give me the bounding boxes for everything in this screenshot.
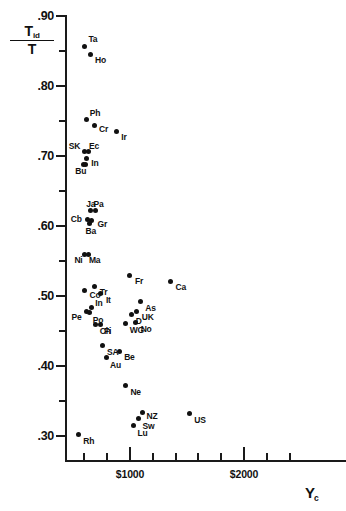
y-tick-major [56,435,67,437]
scatter-plot-figure: Tid T Yc $1000$2000 TaHoPhCrIrSKEcInBuJa… [0,0,346,511]
data-point [138,299,143,304]
y-tick-label: .80 [38,80,54,93]
y-tick-major [56,15,67,17]
x-tick-minor [220,453,222,461]
data-point [92,123,97,128]
data-point [83,162,88,167]
data-point [87,310,92,315]
data-point-label: Be [124,353,134,362]
data-point-label: US [194,416,205,425]
x-tick-minor [83,453,85,461]
data-point-label: Ir [121,133,126,142]
data-point-label: Bu [75,167,86,176]
data-point-label: WG [130,326,144,335]
data-point [93,208,98,213]
x-tick-major [243,447,245,461]
data-point [82,44,87,49]
y-axis-title-subscript: id [33,31,40,40]
data-point [131,423,136,428]
data-point-label: SK [69,142,80,151]
data-point [187,411,192,416]
data-point-label: Ec [89,142,99,151]
data-point [84,117,89,122]
data-point [127,273,132,278]
data-point [117,349,122,354]
data-point [89,305,94,310]
data-point-label: As [145,304,155,313]
plot-area: $1000$2000 TaHoPhCrIrSKEcInBuJaPaCbGrBaN… [65,16,346,462]
data-point [168,279,173,284]
y-tick-label: .30 [38,430,54,443]
data-point [136,416,141,421]
x-tick-minor [266,453,268,461]
data-point-label: Ma [89,256,100,265]
data-point [100,343,105,348]
x-tick-minor [197,453,199,461]
data-point-label: In [91,159,98,168]
y-tick-major [56,85,67,87]
data-point-label: Fi [104,327,111,336]
y-axis-title-numerator: Tid [10,24,54,41]
data-point [98,322,103,327]
x-tick-label: $1000 [116,468,144,480]
data-point [82,288,87,293]
data-point [92,284,97,289]
y-tick-major [56,365,67,367]
x-tick-minor [106,453,108,461]
data-point-label: Au [110,361,121,370]
x-axis-title-subscript: c [314,493,319,503]
y-tick-minor [59,260,67,262]
data-point [114,129,119,134]
y-axis-title-denominator: T [10,41,54,57]
data-point-label: Rh [83,437,94,446]
y-tick-major [56,295,67,297]
y-tick-minor [59,400,67,402]
data-point-label: Ta [88,35,97,44]
data-point-label: Ba [86,227,96,236]
data-point-label: Pe [71,313,81,322]
y-tick-minor [59,120,67,122]
data-point-label: Gr [98,220,108,229]
data-point-label: Pa [93,200,103,209]
data-point-label: In [95,299,102,308]
x-axis-title: Yc [305,484,320,501]
y-tick-label: .40 [38,360,54,373]
data-point-label: Fr [135,277,143,286]
y-tick-minor [59,330,67,332]
data-point [104,355,109,360]
y-tick-major [56,155,67,157]
data-point-label: Ne [130,388,140,397]
y-tick-minor [59,190,67,192]
data-point [140,410,145,415]
data-point-label: Ph [90,109,100,118]
data-point [88,52,93,57]
data-point [123,321,128,326]
data-point-label: It [106,296,111,305]
y-tick-label: .70 [38,150,54,163]
data-point-label: Ni [74,256,82,265]
data-point [87,221,92,226]
x-tick-major [129,447,131,461]
data-point [123,383,128,388]
data-point-label: UK [142,313,154,322]
data-point-label: Lu [137,429,147,438]
data-point [76,432,81,437]
data-point [129,312,134,317]
data-point-label: Cb [71,215,82,224]
data-point-label: Cr [99,125,108,134]
data-point [84,156,89,161]
data-point-label: Ca [175,283,185,292]
y-axis-title: Tid T [10,24,54,56]
y-tick-major [56,225,67,227]
x-tick-minor [289,453,291,461]
y-tick-minor [59,50,67,52]
y-axis-line [65,16,67,462]
data-point-label: Ho [95,56,106,65]
y-tick-label: .60 [38,220,54,233]
data-point-label: NZ [147,412,158,421]
data-point [134,309,139,314]
x-tick-minor [152,453,154,461]
y-tick-label: .50 [38,290,54,303]
x-tick-minor [175,453,177,461]
y-tick-label: .90 [38,10,54,23]
